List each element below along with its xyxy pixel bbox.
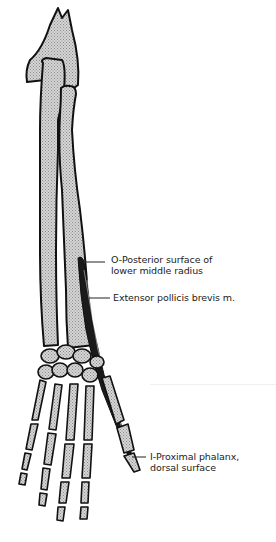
insertion-label-line2: dorsal surface [150, 462, 239, 473]
faint-divider [150, 384, 276, 385]
insertion-label-line1: I-Proximal phalanx, [150, 451, 239, 462]
insertion-label: I-Proximal phalanx, dorsal surface [150, 451, 239, 473]
origin-label: O-Posterior surface of lower middle radi… [111, 254, 212, 276]
metacarpals-and-phalanges [19, 376, 140, 521]
origin-label-line1: O-Posterior surface of [111, 254, 212, 265]
muscle-label: Extensor pollicis brevis m. [113, 292, 235, 303]
origin-label-line2: lower middle radius [111, 265, 212, 276]
